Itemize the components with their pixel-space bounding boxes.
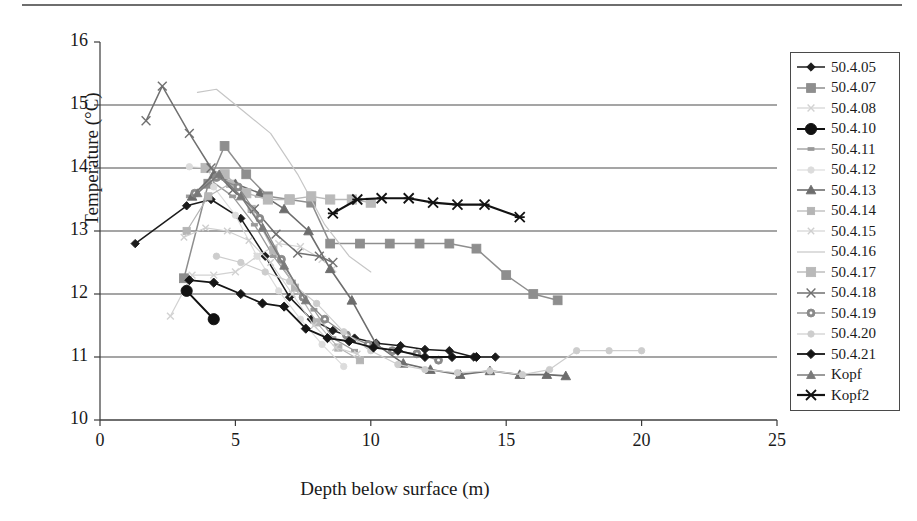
data-point <box>220 142 229 151</box>
data-point <box>806 268 815 277</box>
legend-item-Kopf[interactable]: Kopf <box>794 365 896 386</box>
data-point <box>262 269 268 275</box>
legend-item-50.4.18[interactable]: 50.4.18 <box>794 283 896 304</box>
y-tick-label: 14 <box>48 156 88 177</box>
legend-item-50.4.07[interactable]: 50.4.07 <box>794 78 896 99</box>
data-point <box>167 313 174 320</box>
legend-swatch-icon <box>796 326 826 342</box>
legend-swatch-icon <box>796 264 826 280</box>
legend-item-50.4.12[interactable]: 50.4.12 <box>794 160 896 181</box>
legend-item-50.4.15[interactable]: 50.4.15 <box>794 221 896 242</box>
data-point <box>232 212 238 218</box>
data-point <box>519 371 525 377</box>
legend-item-50.4.10[interactable]: 50.4.10 <box>794 119 896 140</box>
series-Kopf2 <box>328 193 525 222</box>
legend-label: Kopf2 <box>831 388 869 403</box>
data-point <box>321 315 329 323</box>
data-point <box>415 239 424 248</box>
y-tick-label: 10 <box>48 408 88 429</box>
x-axis-title: Depth below surface (m) <box>0 478 790 500</box>
legend-label: 50.4.14 <box>831 203 876 218</box>
y-tick-label: 16 <box>48 30 88 51</box>
data-point <box>236 289 245 298</box>
data-point <box>328 258 337 267</box>
y-tick-label: 11 <box>48 345 88 366</box>
legend-item-50.4.17[interactable]: 50.4.17 <box>794 262 896 283</box>
data-point <box>326 239 335 248</box>
data-point <box>181 234 187 240</box>
legend-label: 50.4.16 <box>831 244 876 259</box>
plot-area: 101112131415160510152025 <box>100 42 777 420</box>
y-tick-label: 12 <box>48 282 88 303</box>
y-tick-label: 15 <box>48 93 88 114</box>
data-point <box>319 341 325 347</box>
legend-item-50.4.13[interactable]: 50.4.13 <box>794 180 896 201</box>
chart-legend[interactable]: 50.4.0550.4.0750.4.0850.4.1050.4.1150.4.… <box>790 52 900 411</box>
legend-item-50.4.11[interactable]: 50.4.11 <box>794 139 896 160</box>
legend-item-50.4.16[interactable]: 50.4.16 <box>794 242 896 263</box>
data-point <box>181 285 192 296</box>
data-point <box>341 363 347 369</box>
data-point <box>356 239 365 248</box>
legend-label: 50.4.11 <box>831 142 875 157</box>
data-point <box>546 366 552 372</box>
series-50.4.21 <box>185 276 481 362</box>
data-point <box>270 255 276 258</box>
data-point <box>420 352 429 361</box>
legend-item-50.4.21[interactable]: 50.4.21 <box>794 344 896 365</box>
legend-item-50.4.20[interactable]: 50.4.20 <box>794 324 896 345</box>
data-point <box>208 314 219 325</box>
data-point <box>502 271 511 280</box>
data-point <box>395 361 401 367</box>
legend-label: 50.4.15 <box>831 224 876 239</box>
legend-swatch-icon <box>796 285 826 301</box>
legend-item-50.4.14[interactable]: 50.4.14 <box>794 201 896 222</box>
legend-swatch-icon <box>796 346 826 362</box>
legend-swatch-icon <box>796 80 826 96</box>
legend-label: 50.4.17 <box>831 265 876 280</box>
data-point <box>806 390 816 400</box>
data-point <box>452 200 462 210</box>
chart-canvas <box>100 42 777 420</box>
data-point <box>254 253 260 259</box>
page-top-rule <box>22 4 902 6</box>
x-tick-label: 20 <box>622 430 662 451</box>
legend-item-50.4.19[interactable]: 50.4.19 <box>794 303 896 324</box>
legend-swatch-icon <box>796 121 826 137</box>
data-point <box>808 331 814 337</box>
legend-swatch-icon <box>796 141 826 157</box>
data-point <box>529 290 538 299</box>
legend-swatch-icon <box>796 100 826 116</box>
legend-swatch-icon <box>796 305 826 321</box>
data-point <box>285 195 294 204</box>
legend-swatch-icon <box>796 367 826 383</box>
x-tick-label: 5 <box>215 430 255 451</box>
data-point <box>404 193 414 203</box>
legend-label: 50.4.12 <box>831 162 876 177</box>
legend-label: 50.4.05 <box>831 60 876 75</box>
data-point <box>211 184 217 190</box>
data-point <box>385 239 394 248</box>
data-point <box>491 353 499 361</box>
legend-swatch-icon <box>796 182 826 198</box>
data-point <box>186 164 192 170</box>
legend-item-50.4.05[interactable]: 50.4.05 <box>794 57 896 78</box>
data-point <box>185 129 194 138</box>
legend-item-50.4.08[interactable]: 50.4.08 <box>794 98 896 119</box>
data-point <box>573 348 579 354</box>
data-point <box>638 348 644 354</box>
axis-ticks <box>94 42 777 426</box>
data-point <box>326 195 335 204</box>
data-point <box>263 195 272 204</box>
legend-item-Kopf2[interactable]: Kopf2 <box>794 385 896 406</box>
series-50.4.18 <box>142 82 338 267</box>
x-tick-label: 0 <box>80 430 120 451</box>
data-point <box>553 296 562 305</box>
data-point <box>307 192 316 201</box>
legend-label: 50.4.08 <box>831 101 876 116</box>
legend-swatch-icon <box>796 244 826 260</box>
data-point <box>472 244 481 253</box>
series-50.4.11 <box>186 179 357 352</box>
chart-page: Temperature (°C) Depth below surface (m)… <box>0 0 917 521</box>
data-point <box>606 348 612 354</box>
